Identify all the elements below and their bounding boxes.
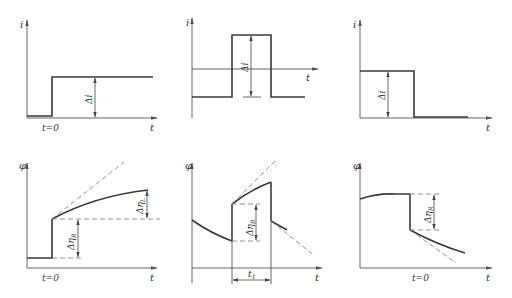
- x-axis-label: t: [150, 122, 155, 133]
- delta-i-label: Δi: [84, 95, 94, 105]
- x-axis-label: t: [486, 272, 491, 283]
- y-axis-label: i: [186, 17, 189, 28]
- x-axis-label: t: [150, 272, 155, 283]
- delta-i-label: Δi: [377, 91, 387, 101]
- time-zero-label: t=0: [42, 273, 59, 283]
- potential-decay-curve: [192, 220, 232, 241]
- y-axis-label: φ: [353, 160, 360, 171]
- y-axis-label: i: [353, 19, 356, 30]
- panel-top-left: i t t=0 Δi: [20, 19, 157, 133]
- figure-svg: i t t=0 Δi i t Δi i t Δi φ t t=0: [0, 0, 512, 298]
- potential-rise-curve: [232, 182, 271, 204]
- y-axis-label: i: [20, 19, 23, 30]
- electrochemical-transient-figure: i t t=0 Δi i t Δi i t Δi φ t t=0: [0, 0, 512, 298]
- svg-text:ΔηL: ΔηL: [135, 198, 146, 215]
- panel-top-middle: i t Δi: [186, 17, 318, 118]
- panel-bottom-right: φ t t=0 ΔηR: [353, 160, 492, 283]
- potential-rise-curve: [52, 190, 148, 219]
- delta-i-label: Δi: [240, 63, 250, 73]
- tail-tangent-dashed-line: [271, 221, 315, 256]
- tangent-dashed-line: [52, 162, 124, 219]
- panel-bottom-middle: φ t t1 ΔηR: [185, 160, 322, 284]
- potential-tail: [271, 221, 287, 230]
- x-axis-label: t: [486, 122, 491, 133]
- delta-eta-r-label: ΔηR: [66, 233, 77, 251]
- time-zero-label: t=0: [42, 123, 59, 133]
- panel-top-right: i t Δi: [353, 19, 492, 133]
- time-zero-label: t=0: [412, 273, 429, 283]
- potential-plateau-curve: [360, 194, 410, 199]
- y-axis-label: φ: [19, 160, 26, 171]
- delta-eta-r-label: ΔηR: [423, 206, 434, 224]
- svg-text:ΔηR: ΔηR: [423, 206, 434, 224]
- delta-eta-r-label: ΔηR: [245, 219, 256, 237]
- svg-text:ΔηR: ΔηR: [245, 219, 256, 237]
- tangent-dashed-line: [410, 230, 456, 263]
- y-axis-label: φ: [185, 160, 192, 171]
- panel-bottom-left: φ t t=0 ΔηR ΔηL: [19, 160, 160, 283]
- x-axis-label: t: [306, 72, 311, 83]
- t1-label: t1: [248, 269, 255, 280]
- svg-text:ΔηR: ΔηR: [66, 233, 77, 251]
- potential-jump-line: [27, 219, 52, 258]
- delta-eta-l-label: ΔηL: [135, 198, 146, 215]
- x-axis-label: t: [315, 272, 320, 283]
